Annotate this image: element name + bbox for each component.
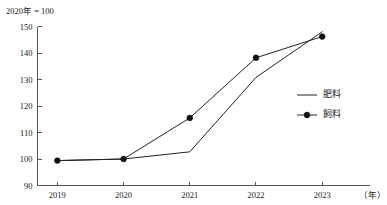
series-marker-point [54, 158, 60, 164]
legend-label: 肥料 [323, 88, 341, 99]
y-axis-tick-label: 150 [20, 22, 33, 32]
y-axis-tick-label: 110 [20, 128, 32, 138]
line-chart: 2020年 = 10090100110120130140150201920202… [0, 0, 387, 205]
y-axis-tick-label: 100 [20, 154, 33, 164]
series-line-2 [57, 37, 322, 161]
legend-item-2[interactable]: 飼料 [297, 108, 341, 119]
series-marker-point [319, 34, 325, 40]
x-axis-tick-label: 2021 [181, 190, 198, 200]
series-marker-point [253, 55, 259, 61]
series-line-1 [57, 32, 322, 161]
chart-container: 2020年 = 10090100110120130140150201920202… [0, 0, 387, 205]
series-marker-point [121, 156, 127, 162]
y-axis-tick-label: 140 [20, 48, 33, 58]
x-axis-tick-label: 2020 [115, 190, 132, 200]
x-axis-tick-label: 2023 [314, 190, 331, 200]
x-axis-tick-label: 2022 [247, 190, 264, 200]
y-axis-tick-label: 130 [20, 75, 33, 85]
y-axis-tick-label: 120 [20, 101, 33, 111]
y-axis-tick-label: 90 [24, 181, 33, 191]
x-axis-tick-label: 2019 [49, 190, 66, 200]
legend-label: 飼料 [323, 108, 341, 119]
legend-item-1[interactable]: 肥料 [297, 88, 341, 99]
x-axis-unit-label: （年） [359, 190, 386, 200]
legend-swatch-marker [304, 112, 310, 118]
index-base-annotation: 2020年 = 100 [6, 6, 54, 16]
series-marker-point [187, 115, 193, 121]
